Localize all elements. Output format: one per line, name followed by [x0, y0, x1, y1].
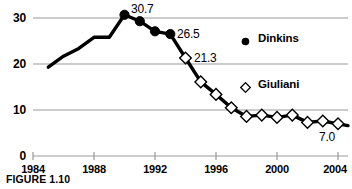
data-point-1990	[120, 10, 129, 19]
data-point-1991	[135, 17, 144, 26]
data-label-30-7: 30.7	[131, 2, 154, 16]
y-tick-label-30: 30	[0, 11, 26, 25]
data-label-21-3: 21.3	[194, 51, 217, 65]
y-tick-label-0: 0	[0, 149, 26, 163]
x-axis	[33, 152, 348, 160]
legend-item-dinkins: Dinkins	[240, 32, 299, 44]
filled-circle-icon	[240, 33, 251, 44]
data-point-1993	[166, 29, 175, 38]
x-tick-label-1996: 1996	[196, 163, 236, 175]
data-label-26-5: 26.5	[177, 27, 200, 41]
data-point-2001	[287, 109, 299, 121]
data-point-2002	[302, 117, 314, 129]
x-tick-label-2004: 2004	[315, 163, 352, 175]
y-tick-label-10: 10	[0, 103, 26, 117]
data-point-2000	[271, 112, 283, 124]
data-point-2003	[317, 115, 329, 127]
data-point-2004	[332, 118, 344, 130]
legend-item-giuliani: Giuliani	[240, 78, 299, 90]
data-point-1992	[150, 27, 159, 36]
open-diamond-icon	[240, 79, 251, 90]
legend-label-giuliani: Giuliani	[258, 78, 299, 90]
x-tick-label-2000: 2000	[257, 163, 297, 175]
legend-label-dinkins: Dinkins	[258, 32, 299, 44]
data-point-1999	[256, 109, 268, 121]
y-tick-label-20: 20	[0, 57, 26, 71]
x-tick-label-1988: 1988	[74, 163, 114, 175]
line-chart-plot	[0, 0, 352, 189]
figure-container: 30 20 10 0 1984 1988 1992 1996 2000 2004…	[0, 0, 352, 189]
x-tick-label-1992: 1992	[135, 163, 175, 175]
data-label-7-0: 7.0	[319, 130, 335, 144]
figure-caption: FIGURE 1.10	[6, 173, 70, 185]
